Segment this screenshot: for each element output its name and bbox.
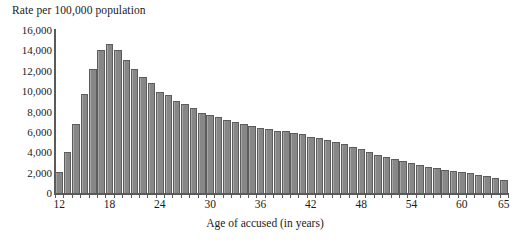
bar [433, 168, 441, 193]
bar [72, 124, 80, 193]
x-axis-tick [89, 194, 90, 198]
bar [374, 155, 382, 193]
bar [248, 126, 256, 193]
bar [139, 77, 147, 193]
bar [181, 104, 189, 193]
x-axis-tick-label: 60 [456, 199, 468, 211]
bar [399, 161, 407, 193]
bar [165, 95, 173, 193]
bar [123, 60, 131, 193]
x-axis-tick-label: 48 [355, 199, 367, 211]
bar [55, 172, 63, 193]
bar [341, 144, 349, 193]
bar [483, 176, 491, 193]
bar [391, 159, 399, 193]
bar [198, 113, 206, 193]
y-axis-tick-label: 14,000 [6, 45, 52, 56]
x-axis-tick [172, 194, 173, 198]
x-axis-tick-label: 30 [204, 199, 216, 211]
bar [332, 142, 340, 193]
bar [232, 122, 240, 193]
bar [190, 108, 198, 193]
bar [492, 178, 500, 193]
bar [299, 134, 307, 193]
bar [215, 117, 223, 193]
x-axis-tick [248, 194, 249, 198]
bar [148, 83, 156, 193]
x-axis-tick [139, 194, 140, 198]
x-axis-tick [449, 194, 450, 198]
x-axis-tick [298, 194, 299, 198]
bar [106, 44, 114, 193]
y-axis-tick-label: 12,000 [6, 65, 52, 76]
bar [349, 147, 357, 193]
x-axis-title: Age of accused (in years) [0, 217, 530, 229]
x-axis-tick [97, 194, 98, 198]
bar [383, 157, 391, 193]
x-axis-tick [399, 194, 400, 198]
bar [416, 165, 424, 193]
bar [425, 167, 433, 193]
x-axis-tick [198, 194, 199, 198]
x-axis-tick [374, 194, 375, 198]
x-axis-tick [433, 194, 434, 198]
x-axis-tick [282, 194, 283, 198]
bar [358, 149, 366, 193]
x-axis-tick [122, 194, 123, 198]
bar [282, 131, 290, 193]
x-axis-tick-label: 54 [406, 199, 418, 211]
bar [450, 171, 458, 193]
x-axis-tick [340, 194, 341, 198]
x-axis-tick [441, 194, 442, 198]
plot-area [55, 30, 508, 193]
x-axis-tick-label: 24 [154, 199, 166, 211]
x-axis-tick [332, 194, 333, 198]
y-axis-tick-label: 8,000 [6, 106, 52, 117]
bar [223, 120, 231, 193]
x-axis-tick [424, 194, 425, 198]
y-axis-tick-label: 2,000 [6, 167, 52, 178]
x-axis-tick [391, 194, 392, 198]
bar [467, 173, 475, 193]
bar [324, 140, 332, 193]
bar [156, 92, 164, 193]
y-axis-tick-label: 6,000 [6, 126, 52, 137]
x-axis-tick [382, 194, 383, 198]
x-axis-tick [181, 194, 182, 198]
x-axis-tick [231, 194, 232, 198]
bar [408, 163, 416, 193]
bar [81, 94, 89, 193]
x-axis-tick [240, 194, 241, 198]
bar [500, 180, 508, 193]
x-axis-tick [80, 194, 81, 198]
y-axis-tick-label: 0 [6, 188, 52, 199]
x-axis-tick [483, 194, 484, 198]
y-axis-tick-label: 10,000 [6, 86, 52, 97]
x-axis-tick [349, 194, 350, 198]
bar [274, 131, 282, 193]
x-axis-tick [147, 194, 148, 198]
chart-container: Rate per 100,000 population 16,00014,000… [0, 0, 530, 249]
bar [240, 124, 248, 193]
x-axis-tick-labels: 12182430364248546065 [0, 199, 530, 215]
x-axis-tick [491, 194, 492, 198]
bar [206, 115, 214, 193]
x-axis-tick-label: 65 [498, 199, 510, 211]
bar [131, 69, 139, 193]
bar [173, 101, 181, 193]
x-axis-tick [131, 194, 132, 198]
bar [114, 50, 122, 193]
x-axis-tick [72, 194, 73, 198]
x-axis-tick-label: 12 [53, 199, 65, 211]
bar-series [55, 30, 508, 193]
x-axis-tick [273, 194, 274, 198]
x-axis-tick [323, 194, 324, 198]
x-axis-tick-label: 42 [305, 199, 317, 211]
bar [475, 175, 483, 193]
x-axis-tick [189, 194, 190, 198]
bar [265, 129, 273, 193]
bar [307, 137, 315, 193]
bar [89, 69, 97, 193]
y-axis-tick-label: 16,000 [6, 25, 52, 36]
bar [64, 152, 72, 193]
